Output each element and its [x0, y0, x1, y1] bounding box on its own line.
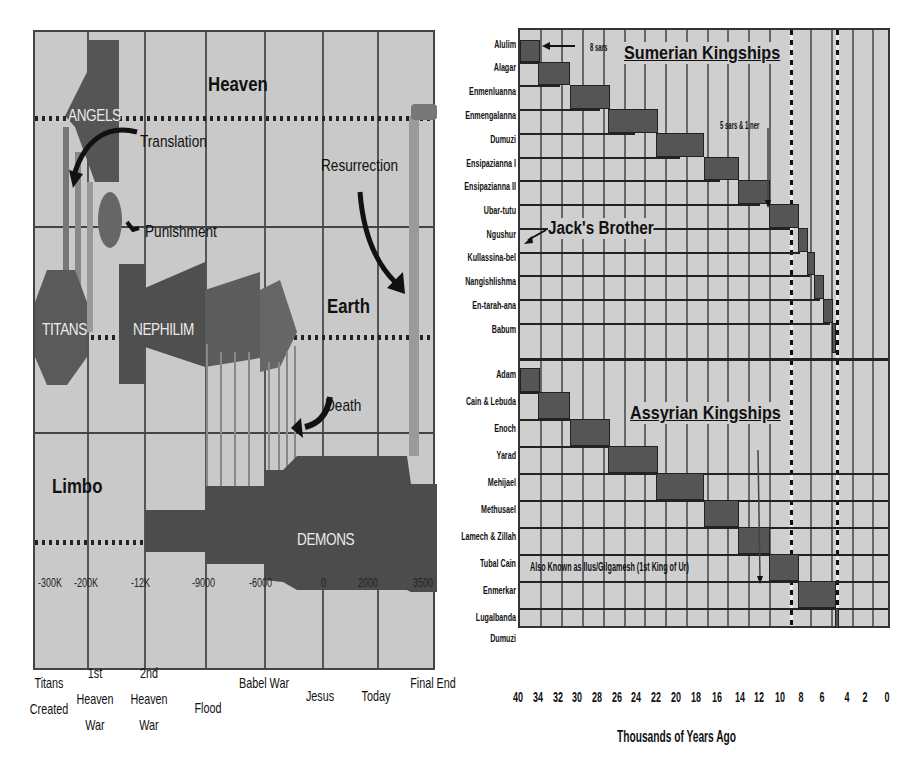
x-tick-label: 6 — [814, 688, 830, 705]
row-label: Ubar-tutu — [181, 204, 516, 216]
row-label: Ensipazianna I — [181, 157, 516, 169]
event-label: Titans Created — [24, 670, 74, 722]
x-tick-label: 0 — [879, 688, 895, 705]
annotation-arrows — [520, 30, 892, 630]
row-label: Ngushur — [181, 228, 516, 240]
row-label: Kullassina-bel — [181, 251, 516, 263]
x-tick-label: 10 — [772, 688, 788, 705]
x-tick-label: 34 — [530, 688, 546, 705]
x-tick-label: 40 — [510, 688, 526, 705]
row-label: Lugalbanda — [181, 611, 516, 623]
row-label: Enmenluanna — [181, 85, 516, 97]
kingships-chart: Sumerian Kingships Assyrian Kingships 8 … — [518, 28, 890, 628]
x-tick-label: 8 — [793, 688, 809, 705]
event-label: Babel War — [239, 670, 289, 696]
x-tick-label: -12K — [131, 576, 150, 590]
row-label: Babum — [181, 323, 516, 335]
event-label: 2nd Heaven War — [124, 660, 174, 738]
row-label: Yarad — [181, 449, 516, 461]
row-label: Mehijael — [181, 476, 516, 488]
row-label: Alulim — [181, 38, 516, 50]
row-label: Dumuzi — [181, 133, 516, 145]
x-tick-label: 18 — [688, 688, 704, 705]
event-label: Flood — [183, 695, 233, 721]
row-label: En-tarah-ana — [181, 299, 516, 311]
event-label: 1st Heaven War — [70, 660, 120, 738]
x-tick-label: 24 — [628, 688, 644, 705]
row-label: Nangishlishma — [181, 275, 516, 287]
x-tick-label: 20 — [668, 688, 684, 705]
row-label: Enmerkar — [181, 584, 516, 596]
row-label: Enmengalanna — [181, 109, 516, 121]
event-label: Final End — [408, 670, 458, 696]
x-tick-label: 16 — [709, 688, 725, 705]
row-label: Cain & Lebuda — [181, 395, 516, 407]
x-tick-label: 2 — [857, 688, 873, 705]
titans-label: TITANS — [42, 320, 87, 340]
spiritual-timeline-chart: Heaven Earth Limbo ANGELS TITANS NEPHILI… — [33, 30, 435, 670]
x-axis-title: Thousands of Years Ago — [617, 727, 736, 747]
row-label: Adam — [181, 368, 516, 380]
row-label: Enoch — [181, 422, 516, 434]
row-label: Methusael — [181, 503, 516, 515]
row-label: Tubal Cain — [181, 557, 516, 569]
x-tick-label: 12 — [751, 688, 767, 705]
x-tick-label: 4 — [839, 688, 855, 705]
row-label: Lamech & Zillah — [181, 530, 516, 542]
row-label: Alagar — [181, 61, 516, 73]
angels-label: ANGELS — [68, 106, 121, 126]
x-tick-label: 30 — [569, 688, 585, 705]
limbo-label: Limbo — [52, 474, 102, 498]
x-tick-label: 22 — [648, 688, 664, 705]
row-label: Ensipazianna II — [181, 180, 516, 192]
x-tick-label: 14 — [732, 688, 748, 705]
x-tick-label: -200K — [74, 576, 98, 590]
x-tick-label: -300K — [38, 576, 62, 590]
x-tick-label: 26 — [609, 688, 625, 705]
event-label: Today — [351, 683, 401, 709]
x-tick-label: 32 — [550, 688, 566, 705]
x-tick-label: 28 — [589, 688, 605, 705]
event-label: Jesus — [295, 683, 345, 709]
row-label: Dumuzi — [181, 632, 516, 644]
